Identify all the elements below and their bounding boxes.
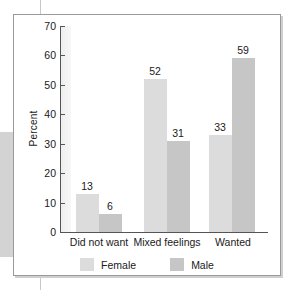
y-tick-mark-70 [60,26,65,27]
y-tick-label-30: 30 [34,138,56,150]
y-tick-label-70: 70 [34,20,56,32]
bar-value-female-did-not-want: 13 [74,180,100,192]
y-tick-mark-10 [60,203,65,204]
y-tick-mark-50 [60,85,65,86]
legend-label-male: Male [191,259,214,271]
bar-male-wanted [232,58,255,232]
bar-female-mixed-feelings [144,79,167,232]
bar-value-female-mixed-feelings: 52 [142,65,168,77]
legend-entry-male: Male [170,258,214,271]
y-tick-label-60: 60 [34,49,56,61]
y-tick-mark-20 [60,173,65,174]
y-axis-line [60,26,61,233]
bar-value-male-did-not-want: 6 [97,200,123,212]
x-tick-label-mixed-feelings: Mixed feelings [130,236,204,248]
bar-chart: Percent 70 60 50 40 30 20 10 0 13 6 52 3… [14,15,280,275]
bar-female-did-not-want [76,194,99,232]
bar-value-female-wanted: 33 [207,121,233,133]
y-tick-mark-0 [60,232,65,233]
y-tick-label-40: 40 [34,108,56,120]
legend-label-female: Female [101,259,136,271]
y-tick-mark-30 [60,144,65,145]
bar-male-mixed-feelings [167,141,190,232]
axis-shadow-band [61,26,71,232]
background-bottom-rule [40,276,41,290]
x-tick-label-did-not-want: Did not want [62,236,136,248]
y-tick-label-10: 10 [34,197,56,209]
x-tick-label-wanted: Wanted [196,236,270,248]
background-top-rule [40,0,41,14]
legend-swatch-female-icon [80,258,94,271]
bar-female-wanted [209,135,232,232]
y-tick-mark-40 [60,114,65,115]
y-tick-label-50: 50 [34,79,56,91]
y-tick-label-0: 0 [34,226,56,238]
x-axis-line [60,232,268,233]
bar-value-male-wanted: 59 [230,44,256,56]
legend-entry-female: Female [80,258,136,271]
chart-figure-frame: Percent 70 60 50 40 30 20 10 0 13 6 52 3… [13,14,281,276]
legend-swatch-male-icon [170,258,184,271]
chart-legend: Female Male [14,258,280,271]
y-tick-label-20: 20 [34,167,56,179]
y-axis-title: Percent [28,94,39,164]
bar-male-did-not-want [99,214,122,232]
bar-value-male-mixed-feelings: 31 [165,127,191,139]
y-tick-mark-60 [60,55,65,56]
